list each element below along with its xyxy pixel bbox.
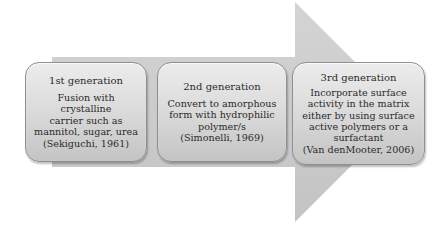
generation-title: 1st generation bbox=[49, 75, 123, 87]
generation-description: Convert to amorphous form with hydrophil… bbox=[168, 98, 277, 144]
generation-title: 2nd generation bbox=[183, 81, 260, 93]
generation-description: Incorporate surface activity in the matr… bbox=[302, 87, 414, 155]
generation-description: Fusion with crystalline carrier such as … bbox=[32, 92, 140, 149]
generation-box-1: 1st generation Fusion with crystalline c… bbox=[25, 62, 147, 162]
generation-title: 3rd generation bbox=[321, 72, 397, 84]
generation-box-2: 2nd generation Convert to amorphous form… bbox=[157, 62, 287, 162]
generation-box-3: 3rd generation Incorporate surface activ… bbox=[292, 62, 425, 165]
